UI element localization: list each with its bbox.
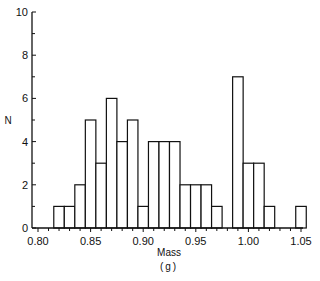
histogram-bar — [201, 185, 212, 228]
histogram-bar — [127, 120, 138, 228]
y-tick-label: 8 — [22, 49, 28, 61]
histogram-bar — [64, 206, 75, 228]
x-tick-label: 0.95 — [185, 235, 206, 247]
histogram-bar — [180, 185, 191, 228]
histogram-bar — [159, 142, 170, 228]
histogram-bar — [254, 163, 265, 228]
histogram-bar — [138, 206, 149, 228]
x-axis-ticks: 0.800.850.900.951.001.05 — [27, 228, 311, 247]
histogram-bar — [191, 185, 202, 228]
histogram-bar — [148, 142, 159, 228]
y-axis-label: N — [4, 115, 11, 126]
y-tick-label: 0 — [22, 222, 28, 234]
histogram-bar — [75, 185, 86, 228]
histogram-bar — [106, 98, 117, 228]
histogram-chart: 0246810 0.800.850.900.951.001.05 N Mass … — [0, 0, 320, 281]
histogram-bar — [54, 206, 65, 228]
y-tick-label: 10 — [16, 6, 28, 18]
histogram-bars — [54, 77, 306, 228]
x-tick-label: 1.00 — [238, 235, 259, 247]
x-tick-label: 0.80 — [27, 235, 48, 247]
y-axis-ticks: 0246810 — [16, 6, 36, 234]
x-tick-label: 0.85 — [80, 235, 101, 247]
histogram-bar — [233, 77, 244, 228]
histogram-bar — [85, 120, 96, 228]
histogram-bar — [212, 206, 223, 228]
histogram-bar — [243, 163, 254, 228]
histogram-bar — [296, 206, 307, 228]
x-tick-label: 0.90 — [132, 235, 153, 247]
x-axis-unit: (g) — [160, 261, 178, 272]
y-tick-label: 2 — [22, 179, 28, 191]
y-tick-label: 6 — [22, 92, 28, 104]
y-tick-label: 4 — [22, 136, 28, 148]
x-axis-label: Mass — [157, 247, 181, 258]
histogram-bar — [264, 206, 275, 228]
histogram-bar — [117, 142, 128, 228]
histogram-bar — [170, 142, 181, 228]
x-tick-label: 1.05 — [290, 235, 311, 247]
histogram-bar — [96, 163, 107, 228]
